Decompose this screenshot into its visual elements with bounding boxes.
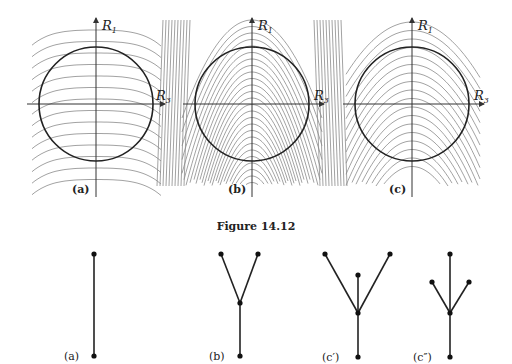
node (429, 279, 434, 284)
panel-label: (a) (72, 183, 90, 196)
tree-label: (c″) (413, 351, 432, 364)
r3-label: R3 (473, 88, 489, 105)
node (387, 251, 392, 256)
r3-label: R3 (155, 88, 171, 105)
level-curve (338, 20, 344, 186)
node (322, 251, 327, 256)
node (447, 354, 452, 359)
node (91, 353, 96, 358)
panel-label: (b) (228, 183, 246, 196)
r3-label: R3 (313, 88, 329, 105)
node (355, 272, 360, 277)
node (447, 310, 452, 315)
tree-label: (c′) (322, 351, 339, 364)
level-curve (341, 20, 347, 186)
panel-label: (c) (389, 183, 406, 196)
node (218, 251, 223, 256)
node (447, 251, 452, 256)
figure-canvas: R1 R3 (a) R1 R3 (b) R1 R3 (c) Figure 14.… (0, 0, 512, 364)
tree-c-double-prime: (c″) (413, 251, 472, 364)
level-curve (175, 20, 181, 186)
node (355, 354, 360, 359)
tree-label: (b) (209, 350, 225, 363)
level-curve (172, 20, 178, 186)
level-curve (335, 20, 341, 186)
r1-label: R1 (257, 18, 273, 35)
level-curve (346, 65, 480, 134)
level-curve (181, 20, 187, 186)
level-curve (346, 56, 480, 123)
r1-label: R1 (101, 18, 117, 35)
r1-label: R1 (417, 18, 433, 35)
tree-c-prime: (c′) (322, 251, 393, 364)
level-curve (332, 20, 338, 186)
node (255, 251, 260, 256)
tree-label: (a) (64, 350, 79, 363)
node (237, 300, 242, 305)
tree-a: (a) (64, 251, 97, 363)
level-curve (346, 90, 480, 168)
figure-caption: Figure 14.12 (217, 220, 296, 233)
node (91, 251, 96, 256)
node (466, 279, 471, 284)
level-curve (329, 20, 335, 186)
level-curve (178, 20, 184, 186)
level-curve (317, 20, 323, 186)
tree-b: (b) (209, 251, 261, 363)
node (355, 310, 360, 315)
node (237, 353, 242, 358)
